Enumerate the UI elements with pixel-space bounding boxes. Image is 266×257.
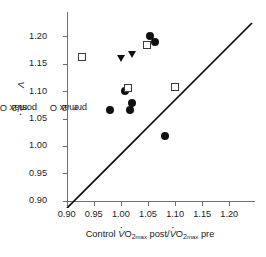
y-tick-label: 1.15 xyxy=(21,59,47,68)
x-tick xyxy=(202,201,203,206)
y-tick-label: 0.95 xyxy=(21,169,47,178)
x-tick-label: 0.90 xyxy=(53,210,81,219)
x-axis-title-prefix: Control xyxy=(86,229,119,239)
data-point-open-square xyxy=(124,84,132,92)
y-tick-label: 0.90 xyxy=(21,196,47,205)
data-point-filled-triangle-down xyxy=(128,51,136,58)
pre-text-x: pre xyxy=(198,229,214,239)
x-tick xyxy=(229,201,230,206)
data-point-filled-triangle-down xyxy=(117,55,125,62)
data-point-open-square xyxy=(78,53,86,61)
o-symbol-x1: O xyxy=(124,229,131,239)
o-symbol-x2: O xyxy=(176,229,183,239)
y-tick-label: 1.10 xyxy=(21,87,47,96)
y-tick xyxy=(63,119,68,120)
data-point-filled-circle xyxy=(151,38,159,46)
x-tick xyxy=(121,201,122,206)
data-point-open-square xyxy=(143,41,151,49)
x-tick-label: 1.20 xyxy=(215,210,243,219)
y-tick xyxy=(63,36,68,37)
y-tick-label: 1.00 xyxy=(21,141,47,150)
data-point-open-square xyxy=(171,83,179,91)
y-tick xyxy=(63,173,68,174)
x-tick-label: 0.95 xyxy=(80,210,108,219)
y-tick-label: 1.05 xyxy=(21,114,47,123)
subscript-max-x2: max xyxy=(187,234,198,240)
x-tick-label: 1.15 xyxy=(188,210,216,219)
subscript-max-x1: max xyxy=(136,234,147,240)
x-tick-label: 1.10 xyxy=(161,210,189,219)
scatter-plot-figure: Experimental VO2max post/VO2max pre Cont… xyxy=(0,0,266,257)
x-tick xyxy=(94,201,95,206)
x-tick-label: 1.05 xyxy=(134,210,162,219)
x-tick xyxy=(175,201,176,206)
x-axis-title: Control VO2max post/VO2max pre xyxy=(40,229,260,240)
y-tick-label: 1.20 xyxy=(21,32,47,41)
x-tick-label: 1.00 xyxy=(107,210,135,219)
x-tick xyxy=(148,201,149,206)
vdot-symbol-x2: V xyxy=(170,229,176,239)
x-tick xyxy=(67,201,68,206)
y-axis-title: Experimental VO2max post/VO2max pre xyxy=(0,0,22,215)
y-tick xyxy=(63,91,68,92)
data-point-filled-circle xyxy=(106,106,114,114)
post-text-x: post/ xyxy=(147,229,170,239)
vdot-symbol-x1: V xyxy=(118,229,124,239)
y-tick xyxy=(63,64,68,65)
plot-area xyxy=(55,12,255,208)
y-tick xyxy=(63,146,68,147)
